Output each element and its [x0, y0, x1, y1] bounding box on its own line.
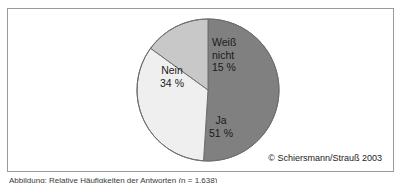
pie-label-weiss-nicht-line1: Weiß [212, 36, 258, 49]
copyright-credit: © Schiersmann/Strauß 2003 [268, 153, 382, 163]
pie-label-weiss-nicht: Weiß nicht 15 % [212, 36, 258, 74]
pie-label-nein: Nein 34 % [149, 64, 195, 89]
pie-chart [135, 17, 281, 163]
pie-label-ja-name: Ja [198, 114, 244, 127]
pie-value-weiss-nicht: 15 % [212, 61, 258, 74]
chart-frame: Weiß nicht 15 % Nein 34 % Ja 51 % © Schi… [7, 8, 394, 172]
pie-value-nein: 34 % [149, 77, 195, 90]
pie-chart-svg [135, 17, 281, 163]
figure-root: Weiß nicht 15 % Nein 34 % Ja 51 % © Schi… [0, 0, 406, 183]
pie-label-ja: Ja 51 % [198, 114, 244, 139]
pie-label-nein-name: Nein [149, 64, 195, 77]
pie-value-ja: 51 % [198, 127, 244, 140]
figure-caption: Abbildung: Relative Häufigkeiten der Ant… [9, 176, 217, 183]
pie-label-weiss-nicht-line2: nicht [212, 49, 258, 62]
